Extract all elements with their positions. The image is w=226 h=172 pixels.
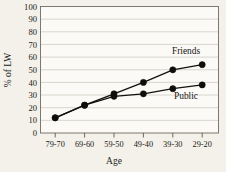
y-tick-label-100: 100 (24, 2, 37, 12)
public-point-5 (199, 82, 205, 88)
y-tick-label-0: 0 (33, 128, 37, 138)
y-tick-label-50: 50 (28, 65, 37, 75)
y-tick-label-60: 60 (28, 52, 37, 62)
series-label-public: Public (174, 91, 198, 101)
public-point-3 (140, 91, 146, 97)
x-axis-title: Age (106, 156, 122, 166)
y-tick-label-20: 20 (28, 103, 37, 113)
friends-point-5 (199, 62, 205, 68)
line-chart: 100 90 80 70 60 50 40 30 20 10 0 79-70 6… (0, 0, 226, 172)
x-tick-label-69-60: 69-60 (75, 140, 94, 149)
public-point-1 (82, 102, 88, 108)
x-tick-label-79-70: 79-70 (46, 140, 65, 149)
public-point-2 (111, 93, 117, 99)
x-tick-label-59-50: 59-50 (104, 140, 123, 149)
y-tick-label-30: 30 (28, 90, 37, 100)
friends-point-3 (140, 79, 146, 85)
friends-point-4 (170, 67, 176, 73)
x-tick-label-29-20: 29-20 (193, 140, 212, 149)
y-tick-label-40: 40 (28, 78, 37, 88)
x-tick-label-49-40: 49-40 (134, 140, 153, 149)
y-tick-label-70: 70 (28, 40, 37, 50)
public-point-0 (52, 115, 58, 121)
chart-figure: 100 90 80 70 60 50 40 30 20 10 0 79-70 6… (0, 0, 226, 172)
y-tick-label-10: 10 (28, 115, 37, 125)
y-tick-label-80: 80 (28, 27, 37, 37)
y-tick-label-90: 90 (28, 14, 37, 24)
x-tick-label-39-30: 39-30 (163, 140, 182, 149)
series-label-friends: Friends (172, 46, 200, 56)
y-axis-title: % of LW (3, 53, 13, 88)
